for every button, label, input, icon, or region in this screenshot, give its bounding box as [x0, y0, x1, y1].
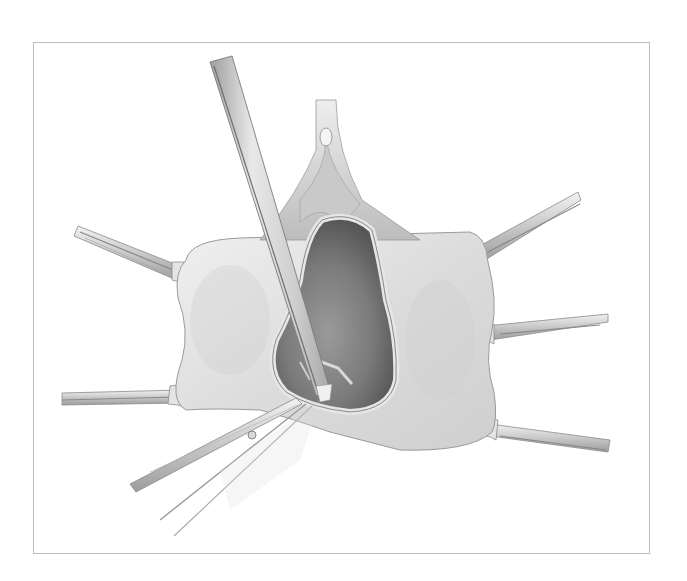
- retractor-right-middle: [484, 314, 608, 344]
- surgical-illustration: [0, 0, 687, 581]
- retractor-right-lower: [486, 418, 610, 452]
- retractor-left-lower: [62, 384, 187, 408]
